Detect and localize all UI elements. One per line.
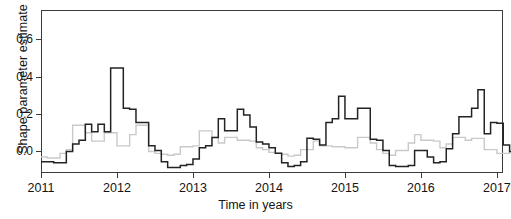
series-canvas	[41, 10, 503, 173]
x-tick-mark	[497, 173, 498, 178]
x-tick-mark	[193, 173, 194, 178]
y-tick-mark	[36, 39, 41, 40]
x-tick-mark	[345, 173, 346, 178]
series-line-shape-parameter-light	[41, 118, 511, 162]
y-tick-label: 0.0	[16, 144, 33, 158]
chart-figure: Shape parameter estimate 0.00.20.40.6 20…	[0, 0, 511, 219]
y-tick-mark	[36, 77, 41, 78]
plot-area: 0.00.20.40.6 201120122013201420152016201…	[41, 10, 503, 173]
x-tick-label: 2015	[331, 181, 359, 195]
y-tick-mark	[36, 114, 41, 115]
x-tick-label: 2014	[255, 181, 283, 195]
x-tick-label: 2017	[483, 181, 511, 195]
x-axis-title: Time in years	[0, 198, 511, 212]
y-tick-label: 0.6	[16, 32, 33, 46]
y-tick-label: 0.4	[16, 70, 33, 84]
x-tick-mark	[117, 173, 118, 178]
x-tick-mark	[421, 173, 422, 178]
y-tick-label: 0.2	[16, 107, 33, 121]
x-tick-label: 2016	[407, 181, 435, 195]
x-tick-label: 2012	[103, 181, 131, 195]
x-tick-label: 2011	[28, 181, 55, 195]
y-tick-mark	[36, 151, 41, 152]
x-tick-mark	[41, 173, 42, 178]
x-tick-mark	[269, 173, 270, 178]
x-tick-label: 2013	[179, 181, 207, 195]
